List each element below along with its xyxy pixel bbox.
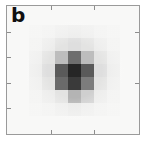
heatmap-cell	[55, 38, 68, 51]
heatmap-grid	[29, 25, 120, 116]
heatmap-cell	[107, 25, 120, 38]
panel-label: b	[11, 4, 25, 26]
heatmap-cell	[94, 38, 107, 51]
figure-panel-b: b	[0, 0, 148, 149]
heatmap-cell	[107, 51, 120, 64]
heatmap-cell	[107, 64, 120, 77]
tick-right-2	[135, 83, 139, 84]
heatmap-cell	[107, 90, 120, 103]
heatmap-cell	[68, 25, 81, 38]
heatmap-cell	[94, 77, 107, 90]
heatmap-cell	[55, 25, 68, 38]
heatmap-cell	[68, 64, 81, 77]
heatmap-cell	[55, 103, 68, 116]
heatmap-cell	[81, 25, 94, 38]
heatmap-cell	[29, 77, 42, 90]
heatmap-cell	[94, 90, 107, 103]
heatmap-cell	[55, 90, 68, 103]
heatmap-cell	[81, 103, 94, 116]
heatmap-cell	[68, 90, 81, 103]
tick-top-1	[51, 6, 52, 10]
heatmap-cell	[107, 103, 120, 116]
heatmap-cell	[42, 64, 55, 77]
heatmap-cell	[81, 51, 94, 64]
heatmap-cell	[81, 90, 94, 103]
heatmap-cell	[55, 77, 68, 90]
axes-frame	[6, 5, 140, 135]
heatmap-cell	[81, 38, 94, 51]
heatmap-cell	[29, 38, 42, 51]
tick-left-3	[7, 83, 11, 84]
heatmap-cell	[94, 103, 107, 116]
heatmap-cell	[107, 77, 120, 90]
heatmap-cell	[94, 64, 107, 77]
heatmap-cell	[94, 51, 107, 64]
heatmap-cell	[68, 38, 81, 51]
heatmap-cell	[29, 25, 42, 38]
tick-top-2	[94, 6, 95, 10]
tick-left-4	[7, 108, 11, 109]
heatmap-cell	[29, 103, 42, 116]
heatmap-cell	[68, 51, 81, 64]
heatmap-cell	[42, 25, 55, 38]
heatmap-cell	[55, 64, 68, 77]
heatmap-cell	[68, 103, 81, 116]
heatmap-cell	[42, 90, 55, 103]
heatmap-cell	[29, 64, 42, 77]
heatmap-cell	[81, 64, 94, 77]
tick-bottom-2	[94, 130, 95, 134]
heatmap-cell	[55, 51, 68, 64]
heatmap-cell	[42, 103, 55, 116]
tick-left-2	[7, 57, 11, 58]
tick-bottom-1	[51, 130, 52, 134]
tick-right-1	[135, 32, 139, 33]
heatmap-cell	[81, 77, 94, 90]
heatmap-cell	[29, 90, 42, 103]
heatmap-cell	[68, 77, 81, 90]
heatmap-cell	[29, 51, 42, 64]
heatmap-cell	[42, 38, 55, 51]
heatmap-cell	[42, 77, 55, 90]
heatmap-cell	[42, 51, 55, 64]
heatmap-cell	[107, 38, 120, 51]
heatmap-cell	[94, 25, 107, 38]
tick-left-1	[7, 32, 11, 33]
